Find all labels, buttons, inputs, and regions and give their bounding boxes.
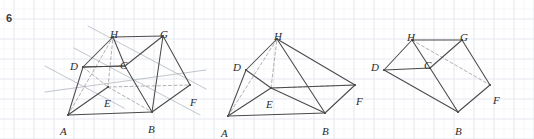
vertex-D xyxy=(245,69,247,71)
vertex-F xyxy=(189,84,191,86)
edge-CB xyxy=(430,68,458,112)
edge-BC xyxy=(125,66,152,112)
edge-AB xyxy=(228,113,325,116)
vertex-D xyxy=(82,66,84,68)
edge-AE xyxy=(68,87,108,115)
vertex-F xyxy=(354,84,356,86)
vertex-B xyxy=(457,111,459,113)
hidden-edge-DE xyxy=(83,67,108,87)
edge-GF xyxy=(462,40,490,85)
edge-EF xyxy=(271,85,355,88)
construction-guide-line xyxy=(88,26,206,89)
edge-BF xyxy=(458,85,490,112)
vertex-label-H: H xyxy=(274,31,282,42)
vertex-label-D: D xyxy=(371,62,379,73)
edge-DH xyxy=(384,40,412,70)
geometry-figures xyxy=(0,0,534,139)
vertex-E xyxy=(270,87,272,89)
hidden-edge-EF xyxy=(108,85,190,87)
edge-CG xyxy=(125,36,163,66)
vertex-D xyxy=(383,69,385,71)
edge-FG xyxy=(163,36,190,85)
vertex-label-C: C xyxy=(120,60,127,71)
vertex-label-B: B xyxy=(322,126,329,137)
construction-guide-line xyxy=(45,70,206,92)
vertex-label-B: B xyxy=(455,126,462,137)
edge-GH xyxy=(113,36,163,37)
edge-GC xyxy=(430,40,462,68)
vertex-label-H: H xyxy=(110,29,118,40)
vertex-A xyxy=(227,115,229,117)
vertex-label-F: F xyxy=(190,97,197,108)
vertex-F xyxy=(489,84,491,86)
vertex-label-H: H xyxy=(407,32,415,43)
vertex-A xyxy=(67,114,69,116)
edge-DH xyxy=(246,39,277,70)
prism-clean-view xyxy=(227,38,356,117)
edge-AD xyxy=(68,67,83,115)
vertex-B xyxy=(324,112,326,114)
vertex-label-F: F xyxy=(493,95,500,106)
vertex-label-C: C xyxy=(424,60,431,71)
edge-BG xyxy=(152,36,163,112)
edge-HF xyxy=(277,39,355,85)
edge-BF xyxy=(325,85,355,113)
edge-AB xyxy=(68,112,152,115)
worksheet-figure-panel: 6 ABCDEFGHABDEFHBCDFGH xyxy=(0,0,534,139)
construction-guide-line xyxy=(74,48,200,115)
vertex-label-A: A xyxy=(60,126,67,137)
edge-BF xyxy=(152,85,190,112)
vertex-B xyxy=(151,111,153,113)
vertex-label-D: D xyxy=(233,62,241,73)
hidden-edge-EB xyxy=(108,87,152,112)
edge-DC xyxy=(83,66,125,67)
vertex-E xyxy=(107,86,109,88)
edge-AD xyxy=(228,70,246,116)
vertex-label-G: G xyxy=(160,29,168,40)
hidden-edge-EH xyxy=(108,37,113,87)
prism-rotated-view xyxy=(383,39,491,113)
vertex-label-G: G xyxy=(460,32,468,43)
vertex-label-A: A xyxy=(221,128,228,139)
vertex-label-E: E xyxy=(266,99,273,110)
vertex-label-F: F xyxy=(356,96,363,107)
edge-DB xyxy=(384,70,458,112)
vertex-label-B: B xyxy=(148,124,155,135)
edge-AE xyxy=(228,88,271,116)
vertex-label-D: D xyxy=(70,61,78,72)
edge-DE xyxy=(246,70,271,88)
vertex-label-E: E xyxy=(104,98,111,109)
